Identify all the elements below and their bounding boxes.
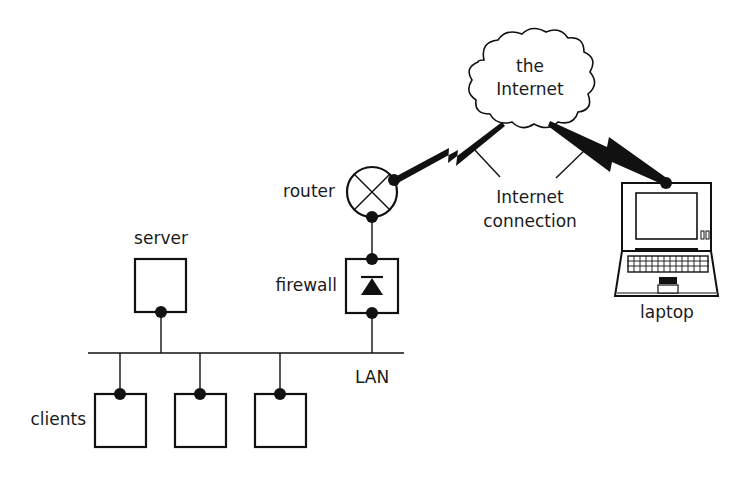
cloud-label-line1: the [516,56,544,76]
internet-connection-label-line2: connection [483,211,577,231]
pointer-line-right [556,147,588,178]
server-icon [135,259,186,312]
clients-label: clients [30,409,86,429]
client-node-1 [95,353,146,447]
internet-connection-label-line1: Internet [496,187,564,207]
laptop-label: laptop [640,302,694,322]
client-node-2 [175,353,226,447]
client-icon [255,394,306,447]
server-node [135,259,186,353]
client-icon [175,394,226,447]
router-label: router [283,181,335,201]
internet-cloud: the Internet [469,28,595,127]
firewall-label: firewall [275,275,337,295]
network-diagram: the Internet Internet connection router … [0,0,750,477]
router-node [347,167,400,223]
client-icon [95,394,146,447]
lan-label: LAN [355,367,389,387]
cloud-label-line2: Internet [496,79,564,99]
lightning-bolt-router-link [393,122,505,184]
firewall-node [346,253,398,319]
server-label: server [134,228,188,248]
client-node-3 [255,353,306,447]
laptop-icon [615,183,718,296]
lightning-bolt-laptop-link [548,121,668,185]
pointer-line-left [473,148,500,177]
laptop-node [615,177,718,296]
